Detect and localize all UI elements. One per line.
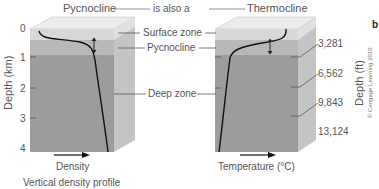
temperature-axis-label: Temperature (°C) [218, 162, 295, 172]
pycnocline-zone-label: Pycnocline [147, 43, 195, 53]
thermocline-header-label: Thermocline [247, 3, 308, 14]
left-tick-0: 0 [20, 24, 26, 34]
left-tick-4: 4 [20, 144, 26, 154]
panel-letter: b [372, 20, 378, 30]
right-tick-0: 3,281 [318, 39, 343, 49]
left-tick-3: 3 [20, 114, 26, 124]
pycnocline-header-label: Pycnocline [63, 3, 116, 14]
density-profile-caption: Vertical density profile [23, 178, 120, 188]
left-tick-2: 2 [20, 84, 26, 94]
right-axis-title: Depth (ft) [354, 60, 365, 106]
connector-text: is also a [153, 4, 190, 14]
temperature-block [215, 17, 318, 152]
density-axis-label: Density [56, 162, 89, 172]
copyright-credit: © Cengage Learning 2010 [367, 48, 373, 118]
right-tick-3: 13,124 [318, 127, 349, 137]
surface-zone-label: Surface zone [143, 28, 202, 38]
density-block [30, 17, 135, 152]
deep-zone-label: Deep zone [148, 89, 196, 99]
right-tick-2: 9,843 [318, 98, 343, 108]
right-tick-1: 6,562 [318, 69, 343, 79]
left-tick-1: 1 [20, 53, 26, 63]
left-axis-title: Depth (km) [3, 56, 14, 110]
